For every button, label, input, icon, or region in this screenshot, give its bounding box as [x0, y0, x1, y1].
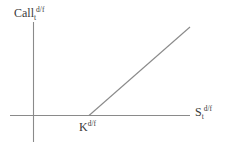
y-axis-label: Calltd/f	[14, 7, 44, 19]
x-axis-label-superscript: d/f	[204, 104, 212, 113]
strike-price-label: Kd/f	[79, 121, 96, 133]
x-axis-label: Std/f	[195, 106, 212, 118]
x-axis-label-base: S	[195, 105, 202, 119]
strike-label-superscript: d/f	[88, 119, 96, 128]
strike-label-base: K	[79, 120, 88, 134]
y-axis-label-base: Call	[14, 6, 34, 20]
payoff-rising-segment	[89, 27, 190, 116]
call-payoff-figure: Calltd/f Std/f Kd/f	[0, 0, 228, 146]
y-axis-label-superscript: d/f	[36, 5, 44, 14]
